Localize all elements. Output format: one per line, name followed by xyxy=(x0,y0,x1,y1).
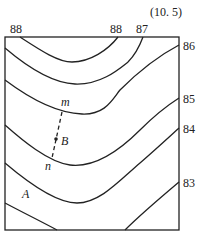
contour-map: (10. 5) 88 88 87 86 85 84 83 m B n A xyxy=(0,0,209,243)
label-b: B xyxy=(61,134,69,148)
contour-88 xyxy=(20,37,118,62)
label-84: 84 xyxy=(183,122,195,136)
label-m: m xyxy=(61,95,70,109)
contour-87 xyxy=(5,37,143,84)
contour-83-right xyxy=(125,182,179,230)
contour-85 xyxy=(5,98,179,165)
label-86: 86 xyxy=(183,39,195,53)
label-a: A xyxy=(21,187,30,201)
label-83: 83 xyxy=(183,176,195,190)
point-b-dot xyxy=(54,137,58,141)
contour-83-left xyxy=(5,203,57,230)
contour-84 xyxy=(5,128,179,203)
figure-number: (10. 5) xyxy=(150,5,182,19)
label-n: n xyxy=(45,159,51,173)
contour-86 xyxy=(5,45,179,114)
label-88-left: 88 xyxy=(10,22,22,36)
map-frame xyxy=(5,37,179,230)
label-88-right: 88 xyxy=(110,22,122,36)
label-85: 85 xyxy=(183,92,195,106)
label-87: 87 xyxy=(136,22,148,36)
